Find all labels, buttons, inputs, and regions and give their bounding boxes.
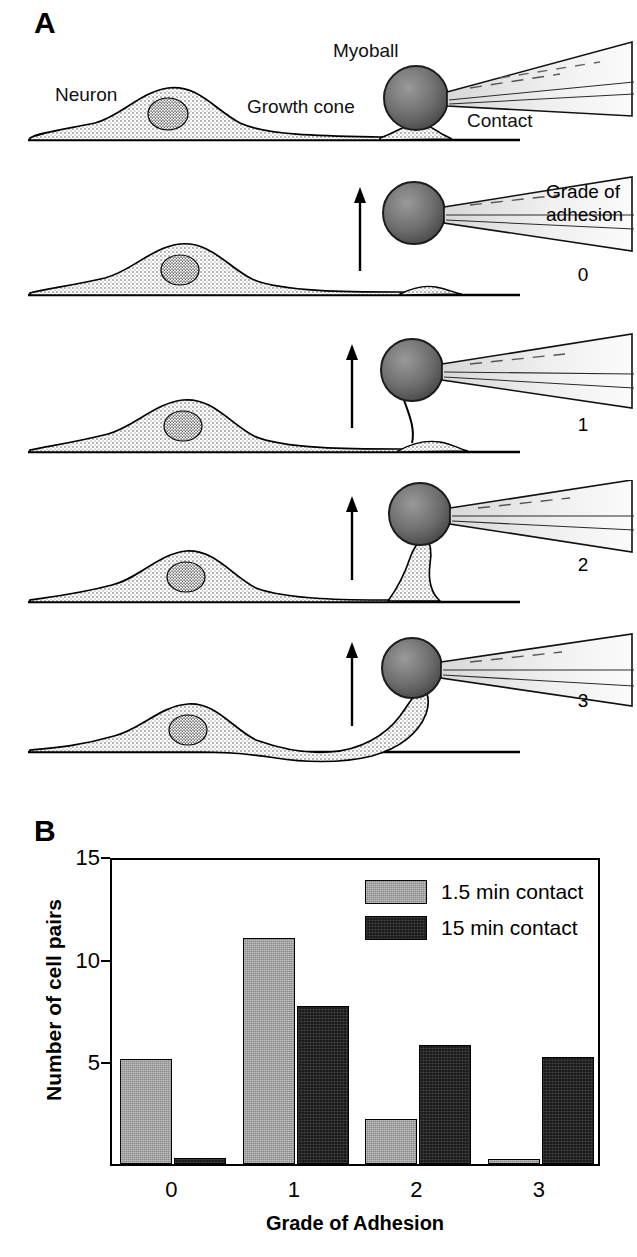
legend-item-1[interactable]: 1.5 min contact xyxy=(365,880,583,904)
x-tick-label-2: 2 xyxy=(386,1178,446,1202)
bar-2-series-1[interactable] xyxy=(365,1119,417,1164)
y-axis-title: Number of cell pairs xyxy=(42,880,66,1120)
diagram-row-grade-2 xyxy=(0,480,637,630)
grade-of-adhesion-heading: Grade of adhesion xyxy=(546,180,623,226)
bar-3-series-2[interactable] xyxy=(542,1057,594,1164)
label-myoball: Myoball xyxy=(333,40,398,62)
label-neuron: Neuron xyxy=(55,84,117,106)
y-tick-mark-15 xyxy=(101,857,110,859)
legend-label-2: 15 min contact xyxy=(441,916,578,940)
x-tick-label-0: 0 xyxy=(141,1178,201,1202)
pull-arrow-icon xyxy=(354,187,366,271)
grade-heading-line1: Grade of xyxy=(546,180,623,203)
pull-arrow-icon xyxy=(346,344,358,428)
panel-b-chart: B Number of cell pairs 1.5 min contact15… xyxy=(0,790,637,1257)
label-contact: Contact xyxy=(467,110,532,132)
chart-legend: 1.5 min contact15 min contact xyxy=(365,880,583,952)
label-growth-cone: Growth cone xyxy=(247,96,355,118)
bar-3-series-1[interactable] xyxy=(488,1159,540,1164)
y-tick-label-15: 15 xyxy=(54,847,100,869)
pull-arrow-icon xyxy=(346,496,358,580)
bar-1-series-1[interactable] xyxy=(243,938,295,1164)
bar-2-series-2[interactable] xyxy=(419,1045,471,1164)
y-tick-mark-10 xyxy=(101,960,110,962)
y-tick-label-5: 5 xyxy=(54,1052,100,1074)
diagram-row-grade-0 xyxy=(0,175,637,315)
legend-swatch-1 xyxy=(365,880,427,904)
bar-0-series-2[interactable] xyxy=(174,1158,226,1164)
bar-1-series-2[interactable] xyxy=(297,1006,349,1164)
panel-a-diagram: A xyxy=(0,0,637,790)
legend-swatch-2 xyxy=(365,916,427,940)
grade-value-3: 3 xyxy=(563,690,603,712)
grade-value-1: 1 xyxy=(563,414,603,436)
pull-arrow-icon xyxy=(346,642,358,726)
grade-heading-line2: adhesion xyxy=(546,203,623,226)
y-tick-label-10: 10 xyxy=(54,950,100,972)
bar-0-series-1[interactable] xyxy=(120,1059,172,1164)
y-tick-mark-5 xyxy=(101,1062,110,1064)
x-tick-label-1: 1 xyxy=(264,1178,324,1202)
grade-value-0: 0 xyxy=(563,264,603,286)
diagram-row-grade-1 xyxy=(0,330,637,475)
bar-group-0 xyxy=(112,860,235,1164)
x-axis-title: Grade of Adhesion xyxy=(110,1212,600,1235)
grade-value-2: 2 xyxy=(563,554,603,576)
bar-group-1 xyxy=(235,860,358,1164)
legend-item-2[interactable]: 15 min contact xyxy=(365,916,583,940)
x-tick-label-3: 3 xyxy=(509,1178,569,1202)
panel-b-label: B xyxy=(34,816,56,846)
legend-label-1: 1.5 min contact xyxy=(441,880,583,904)
plot-area: 1.5 min contact15 min contact xyxy=(110,858,600,1166)
diagram-row-grade-3 xyxy=(0,630,637,780)
